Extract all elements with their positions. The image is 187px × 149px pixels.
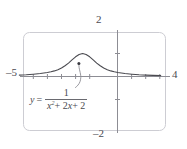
axis-label-y-min: –2 xyxy=(93,128,104,139)
viewing-window-frame xyxy=(24,33,166,131)
axis-label-y-max: 2 xyxy=(96,14,102,25)
equation-fraction: 1 x2+ 2x+ 2 xyxy=(45,88,87,111)
equation-denominator: x2+ 2x+ 2 xyxy=(45,100,87,111)
equation-numerator: 1 xyxy=(60,88,73,99)
axis-label-x-max: 4 xyxy=(172,69,178,80)
equation-equals-sign: = xyxy=(36,94,42,105)
annotation-marker-dot xyxy=(77,62,80,65)
denominator-term3-op: + 2 xyxy=(72,100,85,111)
equation-lhs: y xyxy=(30,94,34,105)
function-equation-label: y = 1 x2+ 2x+ 2 xyxy=(30,88,87,111)
axis-label-x-min: –5 xyxy=(6,67,17,78)
denominator-term2-op: + 2 xyxy=(55,100,68,111)
